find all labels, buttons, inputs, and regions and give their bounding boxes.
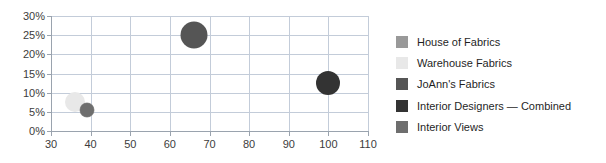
x-axis-tick-mark	[51, 132, 52, 136]
legend-item-label: House of Fabrics	[417, 36, 500, 48]
x-axis-tick-label: 40	[85, 139, 97, 150]
legend-item-label: Interior Designers — Combined	[417, 100, 571, 112]
x-axis-tick-mark	[210, 132, 211, 136]
y-axis-tick-mark	[47, 93, 51, 94]
x-axis-tick-mark	[328, 132, 329, 136]
legend-item-label: JoAnn's Fabrics	[417, 78, 495, 90]
y-axis-tick-mark	[47, 35, 51, 36]
x-axis-tick-label: 30	[45, 139, 57, 150]
legend-item-label: Interior Views	[417, 121, 483, 133]
x-axis-tick-label: 70	[203, 139, 215, 150]
x-axis-tick-mark	[289, 132, 290, 136]
x-axis-tick-mark	[130, 132, 131, 136]
x-axis-tick-label: 90	[283, 139, 295, 150]
x-axis-tick-label: 110	[359, 139, 377, 150]
x-axis-tick-mark	[170, 132, 171, 136]
legend-item-label: Warehouse Fabrics	[417, 57, 512, 69]
legend-swatch-icon	[396, 57, 408, 69]
x-axis-tick-label: 100	[319, 139, 337, 150]
x-axis-tick-label: 60	[164, 139, 176, 150]
bubble-chart: 0%5%10%15%20%25%30% 30405060708090100110…	[0, 0, 606, 163]
x-axis-tick-label: 50	[124, 139, 136, 150]
legend-item[interactable]: JoAnn's Fabrics	[396, 74, 606, 95]
legend-swatch-icon	[396, 100, 408, 112]
x-axis-tick-labels: 30405060708090100110	[0, 0, 395, 163]
legend-item[interactable]: Warehouse Fabrics	[396, 52, 606, 73]
legend-swatch-icon	[396, 78, 408, 90]
legend-swatch-icon	[396, 121, 408, 133]
x-axis-tick-mark	[368, 132, 369, 136]
legend-item[interactable]: House of Fabrics	[396, 31, 606, 52]
plot-region: 0%5%10%15%20%25%30% 30405060708090100110	[0, 0, 395, 163]
y-axis-tick-mark	[47, 74, 51, 75]
x-axis-tick-mark	[91, 132, 92, 136]
legend-swatch-icon	[396, 36, 408, 48]
x-axis-tick-label: 80	[243, 139, 255, 150]
legend-item[interactable]: Interior Designers — Combined	[396, 95, 606, 116]
y-axis-tick-mark	[47, 54, 51, 55]
chart-legend: House of FabricsWarehouse FabricsJoAnn's…	[396, 31, 606, 138]
x-axis-tick-mark	[249, 132, 250, 136]
y-axis-tick-mark	[47, 112, 51, 113]
y-axis-tick-mark	[47, 16, 51, 17]
legend-item[interactable]: Interior Views	[396, 117, 606, 138]
